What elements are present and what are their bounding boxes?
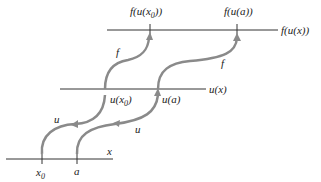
f-u-a-label: f(u(a)): [224, 5, 253, 18]
f-arrow-label-1: f: [116, 46, 121, 58]
composition-diagram: x x0 a u(x) u(x0) u(a) f(u(x)) f(u(x0)) …: [0, 0, 321, 182]
arrowhead-icon: [113, 120, 120, 127]
u-a-label: u(a): [162, 93, 181, 106]
arrowhead-icon: [233, 33, 241, 41]
x0-label: x0: [35, 166, 45, 181]
f-arrow-x0: [105, 38, 149, 89]
u-axis-label: u(x): [209, 83, 227, 96]
u-arrow-label-1: u: [54, 113, 60, 125]
f-arrow-a: [158, 38, 237, 89]
f-axis-label: f(u(x)): [281, 24, 309, 37]
a-label: a: [74, 165, 80, 177]
f-arrow-label-2: f: [221, 57, 226, 69]
u-arrow-label-2: u: [135, 123, 141, 135]
u-x0-label: u(x0): [110, 93, 132, 108]
f-u-x0-label: f(u(x0)): [130, 5, 162, 20]
arrowhead-icon: [146, 32, 153, 40]
x-axis-label: x: [106, 145, 112, 157]
